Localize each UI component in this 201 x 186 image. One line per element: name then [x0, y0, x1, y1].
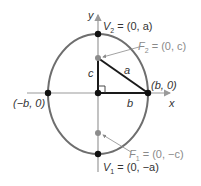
right-covertex-label: (b, 0) [151, 79, 177, 91]
v2-label: V2 = (0, a) [103, 20, 152, 34]
y-axis-label: y [87, 9, 95, 21]
v1-label: V1 = (0, −a) [103, 161, 159, 175]
focus-f2-point [95, 55, 101, 61]
x-axis-label: x [168, 97, 175, 109]
left-covertex-label: (−b, 0) [13, 97, 45, 109]
hypotenuse-a-label: a [124, 64, 130, 76]
focus-f1-point [95, 130, 101, 136]
vertex-v1-point [95, 151, 101, 157]
left-covertex-point [45, 90, 51, 96]
origin-point [95, 90, 101, 96]
ellipse-diagram: y x V2 = (0, a) V1 = (0, −a) F2 = (0, c)… [0, 0, 201, 186]
f1-label: F1 = (0, −c) [129, 148, 184, 162]
vertex-v2-point [95, 31, 101, 37]
side-b-label: b [127, 97, 133, 109]
side-c-label: c [88, 67, 94, 79]
f2-label: F2 = (0, c) [138, 40, 186, 54]
